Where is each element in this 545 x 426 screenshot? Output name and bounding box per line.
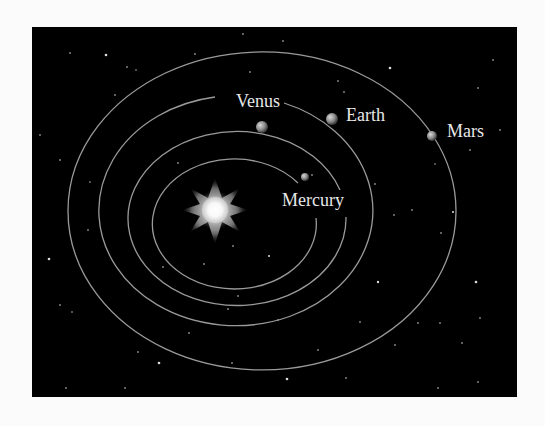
- solar-system-diagram: Venus Earth Mars Mercury: [0, 0, 545, 426]
- stars: [39, 33, 501, 389]
- planet-earth: [326, 113, 338, 125]
- label-venus: Venus: [236, 91, 280, 111]
- sun-icon: [182, 178, 248, 244]
- planet-mars: [427, 131, 437, 141]
- label-mercury: Mercury: [282, 190, 344, 210]
- label-mars: Mars: [447, 121, 484, 141]
- label-earth: Earth: [346, 105, 385, 125]
- planet-mercury: [301, 173, 309, 181]
- orbit-venus: [128, 132, 346, 306]
- planet-venus: [256, 121, 268, 133]
